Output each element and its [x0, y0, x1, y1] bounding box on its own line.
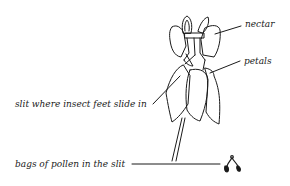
flower-diagram: nectar petals slit where insect feet sli…: [0, 0, 290, 186]
petals-leader-line: [210, 61, 240, 73]
nectar-label: nectar: [245, 20, 274, 29]
pollen-label: bags of pollen in the slit: [15, 160, 125, 169]
slit-leader-line: [153, 76, 180, 104]
flower-petals: [166, 65, 220, 124]
petals-label: petals: [244, 57, 272, 66]
pollen-bags-icon: [225, 156, 241, 172]
slit-label: slit where insect feet slide in: [15, 100, 147, 109]
flower-top-hoods: [170, 16, 221, 60]
flower-stem: [172, 118, 185, 161]
